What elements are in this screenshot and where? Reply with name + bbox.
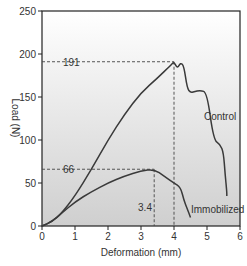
immobilized-series-label: Immobilized: [191, 204, 244, 215]
peak-control-label: 191: [63, 57, 80, 68]
peak-immobilized-label: 66: [63, 164, 75, 175]
x-tick-label: 3: [138, 231, 144, 242]
deformation-immobilized-label: 3.4: [138, 202, 152, 213]
x-tick-label: 4: [171, 231, 177, 242]
x-tick-label: 5: [204, 231, 210, 242]
control-series-label: Control: [204, 111, 236, 122]
y-tick-label: 0: [30, 221, 36, 232]
y-tick-label: 200: [19, 49, 36, 60]
x-axis: 0123456: [39, 226, 243, 242]
y-axis: 050100150200250: [19, 6, 42, 232]
y-axis-title: Load (N): [10, 99, 21, 138]
load-deformation-chart: 050100150200250 0123456 191 66 3.4 Contr…: [0, 0, 247, 266]
x-tick-label: 6: [237, 231, 243, 242]
y-tick-label: 250: [19, 6, 36, 17]
x-tick-label: 2: [105, 231, 111, 242]
y-tick-label: 50: [25, 178, 37, 189]
x-tick-label: 1: [72, 231, 78, 242]
x-axis-title: Deformation (mm): [101, 247, 182, 258]
x-tick-label: 0: [39, 231, 45, 242]
